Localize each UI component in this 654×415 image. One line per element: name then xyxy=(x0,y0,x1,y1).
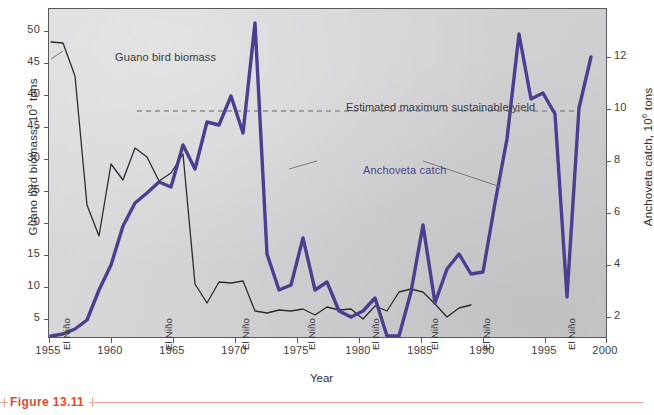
ytick-mark-right-12 xyxy=(606,57,611,58)
anchoveta-leader-left xyxy=(289,161,317,169)
ytick-label-left-8: 10 xyxy=(18,279,40,291)
xtick-mark-1970 xyxy=(235,337,236,343)
guano-leader-line xyxy=(51,51,63,59)
xtick-mark-1980 xyxy=(359,337,360,343)
ytick-label-right-0: 12 xyxy=(614,49,627,61)
ytick-mark-left-35 xyxy=(44,127,49,128)
ytick-mark-left-40 xyxy=(44,95,49,96)
ytick-mark-left-45 xyxy=(44,63,49,64)
el-nino-label-1997: El Niño xyxy=(566,318,577,350)
y-axis-title-left-exponent: 3 xyxy=(25,104,34,109)
xtick-mark-1990 xyxy=(483,337,484,343)
ytick-mark-left-20 xyxy=(44,223,49,224)
xtick-mark-2000 xyxy=(606,337,607,343)
annotation-guano-bird-biomass: Guano bird biomass xyxy=(115,51,216,63)
ytick-mark-right-10 xyxy=(606,109,611,110)
y-axis-title-right-exponent: 6 xyxy=(640,114,649,119)
ytick-label-right-3: 6 xyxy=(614,205,620,217)
ytick-label-right-5: 2 xyxy=(614,309,620,321)
y-axis-title-right-units: tons xyxy=(642,88,654,114)
xtick-label-1985: 1985 xyxy=(400,344,440,356)
ytick-mark-left-5 xyxy=(44,319,49,320)
ytick-mark-left-25 xyxy=(44,191,49,192)
ytick-mark-left-50 xyxy=(44,31,49,32)
annotation-estimated-maximum-sustainable-yield: Estimated maximum sustainable yield xyxy=(346,101,535,113)
x-axis-title: Year xyxy=(0,372,643,384)
ytick-mark-left-10 xyxy=(44,287,49,288)
xtick-label-1980: 1980 xyxy=(338,344,378,356)
y-axis-title-left-units: tons xyxy=(27,78,39,104)
figure-caption-label: Figure 13.11 xyxy=(8,396,89,409)
xtick-label-1995: 1995 xyxy=(524,344,564,356)
xtick-label-2000: 2000 xyxy=(585,344,625,356)
ytick-label-left-0: 50 xyxy=(18,23,40,35)
xtick-label-1960: 1960 xyxy=(90,344,130,356)
xtick-mark-1985 xyxy=(421,337,422,343)
ytick-mark-right-2 xyxy=(606,317,611,318)
ytick-label-right-1: 10 xyxy=(614,101,627,113)
xtick-mark-1960 xyxy=(111,337,112,343)
xtick-label-1990: 1990 xyxy=(462,344,502,356)
y-axis-title-right-text: Anchoveta catch, 10 xyxy=(642,118,654,226)
xtick-label-1970: 1970 xyxy=(214,344,254,356)
y-axis-title-left-text: Guano bird biomass, 10 xyxy=(27,109,39,236)
ytick-mark-right-4 xyxy=(606,265,611,266)
ytick-label-right-2: 8 xyxy=(614,153,620,165)
xtick-label-1975: 1975 xyxy=(276,344,316,356)
y-axis-title-left: Guano bird biomass, 103 tons xyxy=(25,47,39,267)
caption-rule xyxy=(0,402,643,403)
ytick-mark-left-30 xyxy=(44,159,49,160)
figure-caption-bar: Figure 13.11 xyxy=(0,396,643,415)
ytick-label-left-9: 5 xyxy=(18,311,40,323)
xtick-label-1955: 1955 xyxy=(28,344,68,356)
caption-rule-tick-left xyxy=(4,398,5,407)
caption-rule-tick-right xyxy=(92,398,93,407)
annotation-anchoveta-catch: Anchoveta catch xyxy=(363,164,447,176)
xtick-mark-1975 xyxy=(297,337,298,343)
xtick-mark-1995 xyxy=(545,337,546,343)
plot-area: Guano bird biomass Estimated maximum sus… xyxy=(48,8,607,338)
xtick-mark-1965 xyxy=(173,337,174,343)
y-axis-title-right: Anchoveta catch, 106 tons xyxy=(640,47,654,267)
ytick-label-right-4: 4 xyxy=(614,257,620,269)
xtick-mark-1955 xyxy=(49,337,50,343)
ytick-mark-left-15 xyxy=(44,255,49,256)
xtick-label-1965: 1965 xyxy=(152,344,192,356)
ytick-mark-right-8 xyxy=(606,161,611,162)
ytick-mark-right-6 xyxy=(606,213,611,214)
